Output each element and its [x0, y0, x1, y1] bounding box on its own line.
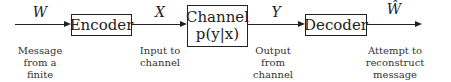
decoder-block: Decoder — [305, 14, 367, 36]
arrow-what-line — [367, 24, 417, 25]
channel-formula: p(y|x) — [196, 26, 239, 43]
channel-label: Channel — [186, 9, 249, 26]
signal-w-hat: Ŵ — [384, 1, 404, 17]
caption-input: Input to channel — [135, 45, 185, 69]
signal-y: Y — [266, 4, 286, 20]
arrow-w-line — [15, 24, 67, 25]
decoder-label: Decoder — [304, 17, 368, 34]
caption-output: Output from channel — [243, 45, 303, 81]
encoder-label: Encoder — [70, 17, 134, 34]
encoder-block: Encoder — [71, 14, 132, 36]
channel-block: Channel p(y|x) — [187, 5, 248, 47]
arrow-what-head — [415, 21, 422, 27]
arrow-y-line — [248, 24, 299, 25]
caption-message: Message from a finite alphabet — [10, 45, 70, 82]
signal-w: W — [30, 4, 50, 20]
arrow-x-line — [132, 24, 182, 25]
signal-x: X — [150, 4, 170, 20]
caption-attempt: Attempt to reconstruct message based on … — [345, 45, 445, 82]
